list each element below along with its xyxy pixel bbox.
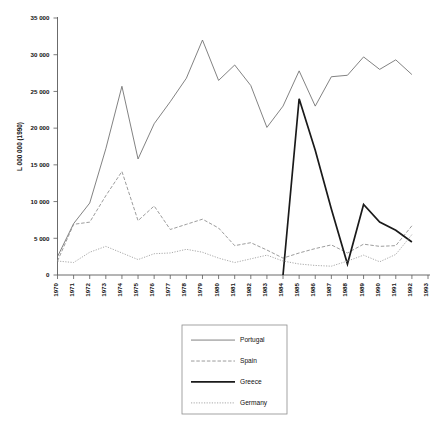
x-tick-label: 1988 bbox=[341, 282, 348, 296]
x-tick-label: 1989 bbox=[358, 282, 365, 296]
y-tick-label: 20 000 bbox=[31, 124, 50, 131]
x-tick-label: 1981 bbox=[229, 282, 236, 296]
chart-legend: PortugalSpainGreeceGermany bbox=[182, 325, 287, 414]
legend-label-portugal: Portugal bbox=[240, 336, 265, 344]
x-tick-label: 1977 bbox=[164, 282, 171, 296]
x-tick-label: 1990 bbox=[374, 282, 381, 296]
y-tick-label: 25 000 bbox=[31, 88, 50, 95]
x-tick-label: 1974 bbox=[116, 282, 123, 296]
y-axis: 05 00010 00015 00020 00025 00030 00035 0… bbox=[31, 14, 58, 278]
line-chart-figure: 05 00010 00015 00020 00025 00030 00035 0… bbox=[0, 0, 441, 433]
x-tick-label: 1978 bbox=[180, 282, 187, 296]
legend-label-spain: Spain bbox=[240, 357, 257, 365]
x-tick-label: 1985 bbox=[293, 282, 300, 296]
x-tick-label: 1972 bbox=[84, 282, 91, 296]
x-tick-label: 1976 bbox=[148, 282, 155, 296]
y-axis-title-text: L 000 000 (1990) bbox=[16, 122, 24, 171]
x-tick-label: 1992 bbox=[406, 282, 413, 296]
x-tick-label: 1980 bbox=[213, 282, 220, 296]
x-tick-label: 1987 bbox=[325, 282, 332, 296]
x-tick-label: 1973 bbox=[100, 282, 107, 296]
series-line-spain bbox=[58, 171, 412, 261]
x-tick-label: 1975 bbox=[132, 282, 139, 296]
y-axis-title: L 000 000 (1990) bbox=[16, 122, 24, 171]
y-tick-label: 35 000 bbox=[31, 14, 50, 21]
x-tick-label: 1993 bbox=[422, 282, 429, 296]
x-tick-label: 1986 bbox=[309, 282, 316, 296]
x-tick-label: 1970 bbox=[52, 282, 59, 296]
x-tick-label: 1984 bbox=[277, 282, 284, 296]
data-series-group bbox=[58, 40, 412, 275]
x-tick-label: 1979 bbox=[196, 282, 203, 296]
legend-label-germany: Germany bbox=[240, 399, 268, 407]
legend-label-greece: Greece bbox=[240, 378, 262, 385]
legend-box bbox=[182, 325, 287, 414]
series-line-greece bbox=[283, 99, 412, 275]
x-tick-label: 1991 bbox=[390, 282, 397, 296]
y-tick-label: 30 000 bbox=[31, 51, 50, 58]
y-tick-label: 0 bbox=[46, 271, 50, 278]
chart-canvas: 05 00010 00015 00020 00025 00030 00035 0… bbox=[0, 0, 441, 433]
y-tick-label: 15 000 bbox=[31, 161, 50, 168]
y-tick-label: 5 000 bbox=[34, 235, 50, 242]
y-tick-label: 10 000 bbox=[31, 198, 50, 205]
x-tick-label: 1982 bbox=[245, 282, 252, 296]
series-line-germany bbox=[58, 235, 412, 267]
x-tick-label: 1983 bbox=[261, 282, 268, 296]
x-axis: 1970197119721973197419751976197719781979… bbox=[52, 275, 431, 297]
x-tick-label: 1971 bbox=[68, 282, 75, 296]
